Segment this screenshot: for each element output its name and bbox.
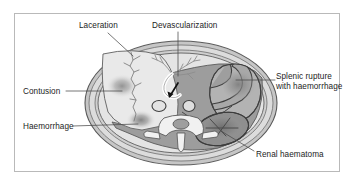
inferior-vena-cava: [152, 101, 166, 112]
splenic-haemorrhage: [223, 71, 257, 101]
label-laceration: Laceration: [79, 21, 118, 31]
label-renal-haematoma: Renal haematoma: [256, 150, 324, 160]
figure-root: Laceration Devascularization Splenic rup…: [0, 0, 355, 184]
haemorrhage-lesion: [126, 110, 156, 130]
label-splenic-line2: with haemorrhage: [276, 82, 342, 91]
aorta: [183, 101, 195, 112]
spinal-canal: [173, 119, 189, 129]
label-contusion: Contusion: [23, 87, 60, 97]
label-devascularization: Devascularization: [152, 21, 217, 31]
label-splenic-rupture: Splenic rupture with haemorrhage: [276, 72, 352, 92]
label-haemorrhage: Haemorrhage: [23, 122, 74, 132]
label-splenic-line1: Splenic rupture: [276, 72, 332, 81]
